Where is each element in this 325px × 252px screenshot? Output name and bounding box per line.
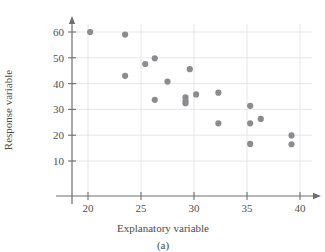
data-point — [193, 91, 199, 97]
y-tick-label: 10 — [53, 155, 65, 167]
data-point — [288, 141, 294, 147]
figure-caption: (a) — [157, 239, 170, 252]
axes-group — [56, 16, 321, 204]
x-tick-label: 20 — [83, 202, 95, 214]
y-axis-title: Response variable — [2, 70, 14, 150]
data-point — [164, 78, 170, 84]
tick-marks-group — [68, 32, 300, 200]
data-point — [288, 132, 294, 138]
data-point — [182, 100, 188, 106]
data-point — [247, 103, 253, 109]
scatter-plot-canvas: 2025303540 102030405060 Explanatory vari… — [0, 0, 325, 252]
data-point — [258, 116, 264, 122]
data-point — [187, 66, 193, 72]
data-point — [247, 120, 253, 126]
x-axis-tick-labels: 2025303540 — [83, 202, 307, 214]
data-point — [87, 29, 93, 35]
data-points-group — [87, 29, 295, 147]
x-axis-title: Explanatory variable — [117, 222, 209, 234]
data-point — [142, 61, 148, 67]
x-tick-label: 25 — [136, 202, 148, 214]
y-tick-label: 30 — [53, 103, 65, 115]
data-point — [215, 120, 221, 126]
data-point — [122, 73, 128, 79]
data-point — [152, 55, 158, 61]
data-point — [152, 97, 158, 103]
y-axis-arrowhead — [69, 16, 75, 24]
x-tick-label: 40 — [295, 202, 307, 214]
y-tick-label: 60 — [53, 26, 65, 38]
data-point — [215, 90, 221, 96]
y-tick-label: 40 — [53, 78, 65, 90]
x-axis-arrowhead — [313, 193, 321, 199]
data-point — [122, 31, 128, 37]
x-tick-label: 30 — [189, 202, 201, 214]
x-tick-label: 35 — [242, 202, 254, 214]
gridlines-group — [72, 24, 312, 196]
scatter-plot-figure: 2025303540 102030405060 Explanatory vari… — [0, 0, 325, 252]
y-axis-tick-labels: 102030405060 — [53, 26, 65, 167]
data-point — [247, 141, 253, 147]
y-tick-label: 50 — [53, 52, 65, 64]
y-tick-label: 20 — [53, 129, 65, 141]
